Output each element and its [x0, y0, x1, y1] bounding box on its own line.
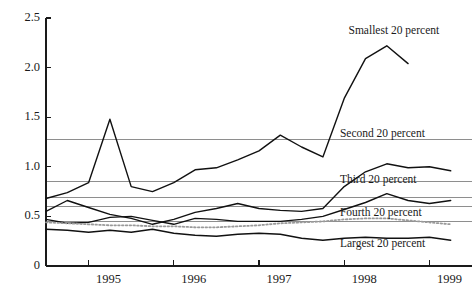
chart-plot-area — [0, 0, 476, 296]
series-label: Fourth 20 percent — [340, 206, 422, 218]
y-axis-tick-label: 0 — [34, 258, 40, 273]
y-axis-tick-label: 2.5 — [24, 10, 40, 25]
series-label: Second 20 percent — [340, 127, 425, 139]
series-label: Largest 20 percent — [340, 237, 425, 249]
x-axis-tick-label: 1995 — [86, 272, 132, 287]
y-axis-tick-label: 0.5 — [24, 208, 40, 223]
series-label: Smallest 20 percent — [349, 24, 440, 36]
y-axis-tick-label: 1.5 — [24, 109, 40, 124]
x-axis-tick-label: 1999 — [426, 272, 472, 287]
x-axis-tick-label: 1997 — [256, 272, 302, 287]
series-label: Third 20 percent — [340, 173, 417, 185]
chart-container: 00.51.01.52.02.519951996199719981999Smal… — [0, 0, 476, 296]
y-axis-tick-label: 1.0 — [24, 159, 40, 174]
y-axis-tick-label: 2.0 — [24, 60, 40, 75]
x-axis-tick-label: 1996 — [171, 272, 217, 287]
x-axis-tick-label: 1998 — [341, 272, 387, 287]
series-line — [46, 218, 451, 227]
